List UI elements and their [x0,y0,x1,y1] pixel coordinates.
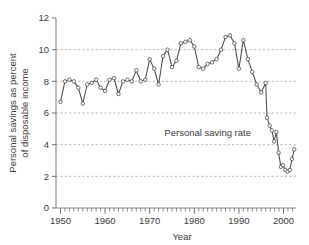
data-point [228,34,232,38]
data-point [161,54,165,58]
data-point [255,83,259,87]
data-point [251,70,255,74]
data-point [281,164,285,168]
data-point [197,65,201,69]
annotation-personal-saving-rate: Personal saving rate [164,127,251,138]
data-point [143,78,147,82]
y-tick-label-6: 6 [44,107,49,118]
x-axis-title: Year [172,231,191,242]
y-tick-label-2: 2 [44,171,49,182]
data-point [148,57,152,61]
y-tick-label-4: 4 [44,139,49,150]
data-point [103,89,107,93]
data-point [224,35,228,39]
data-point [99,86,103,90]
y-axis-ticks [52,18,56,208]
x-tick-label-2000: 2000 [273,215,294,226]
data-point [201,67,205,71]
y-tick-label-12: 12 [38,12,49,23]
data-point [206,62,210,66]
data-point [81,102,85,106]
data-point [268,124,272,128]
x-tick-label-1950: 1950 [50,215,71,226]
data-point [275,130,279,134]
y-tick-label-10: 10 [38,44,49,55]
data-point [265,116,269,120]
data-point [237,67,241,71]
data-point [292,148,296,152]
data-point [259,91,263,95]
data-point [117,92,121,96]
y-axis-title-line2: of disposable income [19,68,30,157]
x-tick-label-1990: 1990 [228,215,249,226]
data-point [166,48,170,52]
x-axis-tick-labels: 195019601970198019902000 [50,215,294,226]
data-point [242,38,246,42]
chart-container: 195019601970198019902000 024681012 Year … [0,0,309,245]
x-axis-ticks [60,208,292,214]
data-point [126,78,130,82]
x-tick-label-1970: 1970 [139,215,160,226]
data-point [170,65,174,69]
y-axis-tick-labels: 024681012 [38,12,49,213]
data-point [246,57,250,61]
data-point [272,140,276,144]
data-point [72,80,76,84]
series-path-personal-saving-rate [60,35,294,171]
data-point [63,80,67,84]
data-point [193,45,197,49]
data-point [270,129,274,133]
data-point [139,80,143,84]
data-point [184,40,188,44]
data-point [59,100,63,104]
data-point [210,61,214,65]
data-point [90,81,94,85]
x-tick-label-1960: 1960 [95,215,116,226]
data-point [179,42,183,46]
data-point [277,151,281,155]
grid-lines [56,50,296,177]
data-series-personal-saving-rate [60,35,294,171]
data-point [215,57,219,61]
data-point [135,69,139,73]
data-point [175,59,179,63]
y-tick-label-0: 0 [44,202,49,213]
data-point [77,86,81,90]
data-point [264,81,268,85]
data-point-markers [59,34,296,174]
y-tick-label-8: 8 [44,76,49,87]
x-tick-label-1980: 1980 [184,215,205,226]
data-point [112,76,116,80]
data-point [130,80,134,84]
data-point [152,67,156,71]
data-point [233,42,237,46]
data-point [68,78,72,82]
y-axis-title-line1: Personal savings as percent [7,53,18,173]
data-point [85,83,89,87]
data-point [290,157,294,161]
data-point [157,83,161,87]
data-point [108,78,112,82]
data-point [188,38,192,42]
data-point [219,48,223,52]
data-point [288,168,292,172]
data-point [121,80,125,84]
line-chart: 195019601970198019902000 024681012 Year … [0,0,309,245]
data-point [94,78,98,82]
